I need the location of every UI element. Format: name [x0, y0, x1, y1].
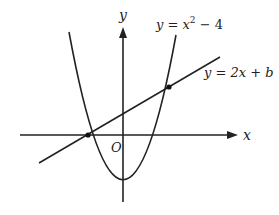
origin-label: O: [111, 140, 122, 155]
x-axis-label: x: [243, 127, 251, 143]
graph-svg: y x O y = x2 − 4 y = 2x + b: [0, 0, 279, 215]
line-curve: [39, 57, 220, 163]
diagram-canvas: y x O y = x2 − 4 y = 2x + b: [0, 0, 279, 215]
y-axis-label: y: [118, 7, 128, 23]
parabola-label-prefix: y = x: [155, 17, 191, 32]
x-axis-arrow-icon: [227, 131, 238, 139]
y-axis-arrow-icon: [119, 27, 127, 38]
parabola-label-suffix: − 4: [196, 17, 223, 32]
intersection-point-left: [85, 132, 90, 137]
parabola-label: y = x2 − 4: [155, 15, 223, 32]
line-label: y = 2x + b: [203, 65, 274, 80]
intersection-point-right: [166, 84, 171, 89]
